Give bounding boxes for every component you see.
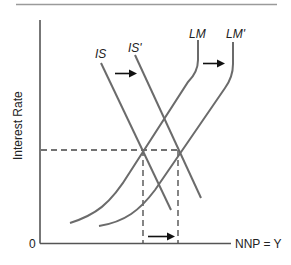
lm-label: LM: [189, 27, 206, 41]
is-shift-arrow-icon: [115, 70, 137, 78]
is-curve: [101, 63, 171, 210]
origin-label: 0: [29, 237, 36, 251]
output-increase-arrow-icon: [148, 233, 175, 241]
is-label: IS: [95, 47, 106, 61]
is-prime-curve: [135, 55, 201, 198]
lm-shift-arrow-icon: [203, 60, 225, 68]
x-axis-label: NNP = Y: [235, 237, 282, 251]
y-axis-label: Interest Rate: [11, 91, 25, 160]
is-prime-label: IS': [128, 41, 142, 55]
lm-prime-label: LM': [226, 27, 246, 41]
is-lm-diagram: 0 NNP = Y Interest Rate IS IS' LM LM': [0, 0, 291, 265]
